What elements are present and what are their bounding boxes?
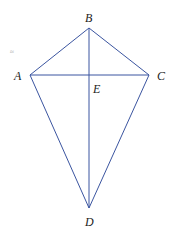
label-b: B [85,11,93,25]
label-d: D [84,215,94,229]
stray-mark: ≈ [10,48,14,56]
kite-diagram: B A C E D ≈ [0,0,171,231]
segment-bc [89,28,149,75]
label-a: A [13,69,22,83]
segment-ab [30,28,89,75]
label-c: C [157,69,166,83]
label-e: E [92,82,101,96]
segment-da [30,75,89,208]
